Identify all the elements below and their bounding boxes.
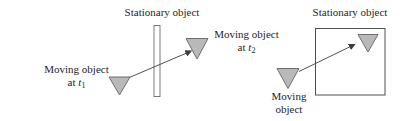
subscript-1: 1: [81, 81, 85, 90]
stationary-barrier-rect: [154, 26, 160, 97]
trajectory-arrow-right: [299, 46, 353, 72]
target-triangle-in-box: [358, 35, 378, 53]
subscript-2: 2: [251, 46, 255, 55]
moving-triangle-t2: [186, 39, 208, 60]
moving-object-right-line1: Moving: [266, 90, 312, 103]
moving-object-t2-line2: at t2: [210, 41, 283, 55]
stationary-object-label-left: Stationary object: [120, 6, 204, 19]
moving-object-right-line2: object: [266, 103, 312, 116]
moving-object-t1-line1: Moving object: [40, 63, 113, 76]
moving-object-t2-label: Moving object at t2: [210, 28, 283, 55]
moving-triangle-right: [277, 69, 299, 89]
physics-diagram: Stationary object Moving object at t1 Mo…: [0, 0, 408, 121]
moving-object-t2-line1: Moving object: [210, 28, 283, 41]
moving-object-t1-line2: at t1: [40, 76, 113, 90]
stationary-object-label-right: Stationary object: [308, 6, 392, 19]
moving-object-label-right: Moving object: [266, 90, 312, 116]
moving-object-t1-label: Moving object at t1: [40, 63, 113, 90]
